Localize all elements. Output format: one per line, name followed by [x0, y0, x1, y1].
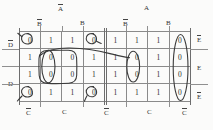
kmap-cell[interactable]: 1 [127, 84, 149, 102]
top-label-a: A [144, 4, 149, 12]
kmap-cell[interactable]: 1 [105, 31, 127, 49]
kmap-cell[interactable]: 0 [170, 67, 192, 85]
kmap-cell[interactable]: 1 [105, 84, 127, 102]
tick-top-3 [83, 26, 84, 31]
tick-top-6 [169, 26, 170, 31]
kmap-grid: 01101110100110101001101001101110 [19, 31, 191, 102]
kmap-cell[interactable]: 1 [148, 84, 170, 102]
kmap-cell[interactable]: 0 [41, 49, 63, 67]
tick-bottom-2 [83, 102, 84, 107]
kmap-cell[interactable]: 1 [148, 67, 170, 85]
kmap-cell[interactable]: 1 [148, 31, 170, 49]
bottom-label-c-2: C [147, 108, 152, 116]
tick-left-lower [2, 84, 19, 85]
top-label-a-not-text: A [58, 4, 63, 13]
bottom-label-c-not-2: C [104, 108, 109, 117]
kmap-cell[interactable]: 1 [127, 31, 149, 49]
kmap-cell[interactable]: 1 [19, 67, 41, 85]
right-label-e-not-2-text: E [197, 92, 201, 101]
right-label-e: E [197, 64, 201, 72]
kmap-cell[interactable]: 0 [170, 84, 192, 102]
tick-top-2 [62, 26, 63, 31]
kmap-cell[interactable]: 1 [84, 49, 106, 67]
kmap-cell[interactable]: 1 [62, 31, 84, 49]
kmap-cell[interactable]: 0 [127, 67, 149, 85]
kmap-cell[interactable]: 1 [41, 84, 63, 102]
bottom-label-c-1-text: C [62, 108, 67, 116]
kmap-cell[interactable]: 0 [84, 31, 106, 49]
kmap-cell[interactable]: 0 [62, 67, 84, 85]
tick-left-middle [2, 66, 19, 67]
bottom-label-c-not-2-text: C [104, 108, 109, 117]
top-label-a-text: A [144, 4, 149, 12]
top-label-a-not: A [58, 4, 63, 13]
bottom-label-c-not-1: C [26, 108, 31, 117]
kmap-cell[interactable]: 0 [62, 49, 84, 67]
karnaugh-map-figure: A A B B B B D D E E E C C C C C [0, 0, 213, 130]
frame-left-line [19, 28, 20, 105]
tick-right-upper [190, 49, 208, 50]
separator-a-boundary-2 [106, 28, 107, 105]
kmap-cell[interactable]: 0 [127, 49, 149, 67]
separator-a-boundary [104, 28, 105, 105]
right-label-e-not-1: E [197, 35, 201, 44]
tick-left-upper [2, 49, 19, 50]
right-label-e-text: E [197, 64, 201, 72]
frame-right-line [190, 28, 191, 105]
tick-top-1 [40, 26, 41, 31]
kmap-cell[interactable]: 1 [41, 31, 63, 49]
bottom-label-c-not-3: C [182, 108, 187, 117]
left-label-d-not-text: D [8, 40, 13, 49]
bottom-label-c-1: C [62, 108, 67, 116]
kmap-cell[interactable]: 1 [105, 67, 127, 85]
kmap-cell[interactable]: 0 [19, 31, 41, 49]
bottom-label-c-2-text: C [147, 108, 152, 116]
kmap-cell[interactable]: 0 [84, 84, 106, 102]
bottom-label-c-not-1-text: C [26, 108, 31, 117]
tick-top-4 [126, 26, 127, 31]
kmap-cell[interactable]: 0 [170, 31, 192, 49]
kmap-cell[interactable]: 0 [19, 84, 41, 102]
tick-bottom-4 [169, 102, 170, 107]
kmap-cell[interactable]: 1 [84, 67, 106, 85]
kmap-cell[interactable]: 1 [148, 49, 170, 67]
right-label-e-not-2: E [197, 92, 201, 101]
kmap-cell[interactable]: 1 [19, 49, 41, 67]
left-label-d-not: D [8, 40, 13, 49]
tick-right-lower [190, 84, 208, 85]
kmap-cell[interactable]: 1 [62, 84, 84, 102]
tick-top-5 [147, 26, 148, 31]
tick-bottom-1 [40, 102, 41, 107]
kmap-cell[interactable]: 1 [105, 49, 127, 67]
bottom-label-c-not-3-text: C [182, 108, 187, 117]
kmap-cell[interactable]: 0 [41, 67, 63, 85]
right-label-e-not-1-text: E [197, 35, 201, 44]
tick-bottom-3 [126, 102, 127, 107]
kmap-cell[interactable]: 0 [170, 49, 192, 67]
